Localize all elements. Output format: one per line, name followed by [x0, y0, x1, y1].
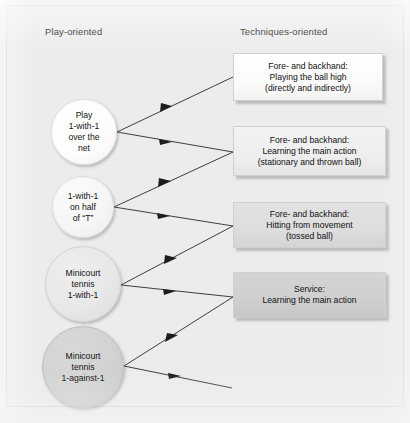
- node-label: Service: Learning the main action: [234, 284, 385, 306]
- figure-caption: [8, 412, 402, 421]
- node-service-learning-main-action[interactable]: Service: Learning the main action: [233, 272, 386, 318]
- column-header-play-oriented: Play-oriented: [45, 26, 102, 37]
- node-minicourt-tennis-1-against-1[interactable]: Minicourt tennis 1-against-1: [42, 326, 124, 408]
- node-minicourt-tennis-1-with-1[interactable]: Minicourt tennis 1-with-1: [45, 246, 121, 322]
- node-fore-backhand-playing-ball-high[interactable]: Fore- and backhand: Playing the ball hig…: [233, 53, 383, 101]
- figure-canvas: Play-oriented Techniques-oriented: [0, 0, 410, 423]
- node-label: Play 1-with-1 over the net: [52, 110, 116, 154]
- node-label: Fore- and backhand: Playing the ball hig…: [234, 61, 382, 94]
- node-label: Fore- and backhand: Hitting from movemen…: [234, 209, 385, 242]
- node-1-with-1-on-half-of-t[interactable]: 1-with-1 on half of “T”: [52, 176, 114, 238]
- node-label: Minicourt tennis 1-against-1: [43, 351, 123, 384]
- column-header-techniques-oriented: Techniques-oriented: [240, 26, 327, 37]
- node-fore-backhand-hitting-from-movement[interactable]: Fore- and backhand: Hitting from movemen…: [233, 202, 386, 248]
- node-play-1-with-1-over-the-net[interactable]: Play 1-with-1 over the net: [51, 99, 117, 165]
- node-label: Fore- and backhand: Learning the main ac…: [234, 135, 385, 168]
- node-fore-backhand-learning-main-action[interactable]: Fore- and backhand: Learning the main ac…: [233, 126, 386, 176]
- node-label: 1-with-1 on half of “T”: [53, 191, 113, 224]
- node-label: Minicourt tennis 1-with-1: [46, 268, 120, 301]
